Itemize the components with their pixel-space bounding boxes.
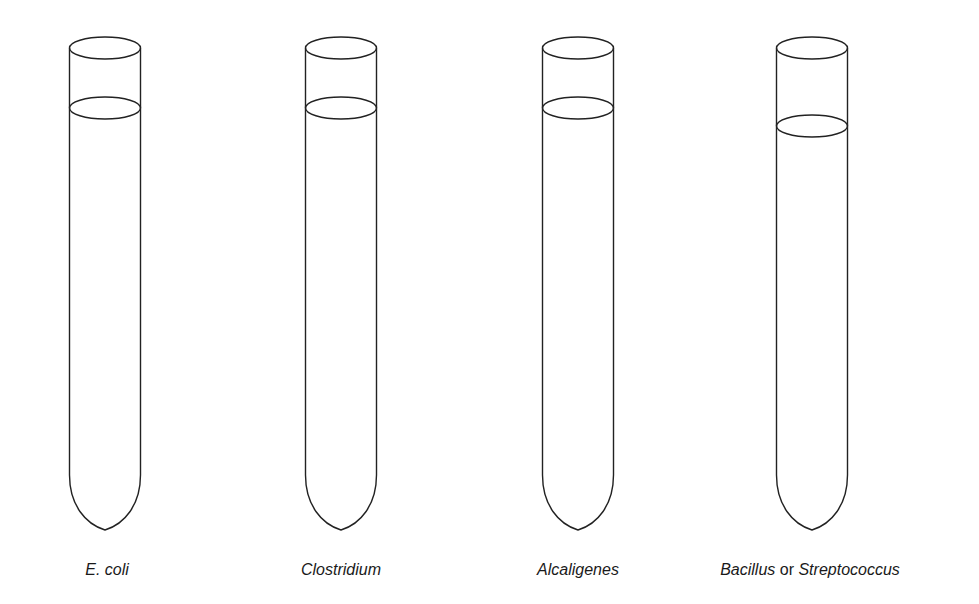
tube-label-clostridium: Clostridium <box>301 561 381 579</box>
tube-body <box>777 48 848 530</box>
liquid-surface <box>70 97 141 119</box>
tube-body <box>70 48 141 530</box>
tube-body <box>306 48 377 530</box>
label-text-streptococcus: Streptococcus <box>798 561 899 578</box>
tube-label-alcaligenes: Alcaligenes <box>537 561 619 579</box>
test-tube-diagram <box>0 0 979 604</box>
label-text: Clostridium <box>301 561 381 578</box>
tube-label-ecoli: E. coli <box>85 561 129 579</box>
test-tube-bacillus-streptococcus <box>777 37 848 530</box>
test-tube-clostridium <box>306 37 377 530</box>
label-text-bacillus: Bacillus <box>720 561 775 578</box>
test-tube-ecoli <box>70 37 141 530</box>
liquid-surface <box>306 97 377 119</box>
liquid-surface <box>543 97 614 119</box>
label-text-or: or <box>775 561 798 578</box>
tube-rim <box>70 37 141 59</box>
tube-body <box>543 48 614 530</box>
tube-rim <box>306 37 377 59</box>
tube-label-bacillus-or-streptococcus: Bacillus or Streptococcus <box>720 561 900 579</box>
tube-rim <box>777 37 848 59</box>
tube-rim <box>543 37 614 59</box>
label-text: Alcaligenes <box>537 561 619 578</box>
liquid-surface <box>777 115 848 137</box>
label-text: E. coli <box>85 561 129 578</box>
test-tube-alcaligenes <box>543 37 614 530</box>
